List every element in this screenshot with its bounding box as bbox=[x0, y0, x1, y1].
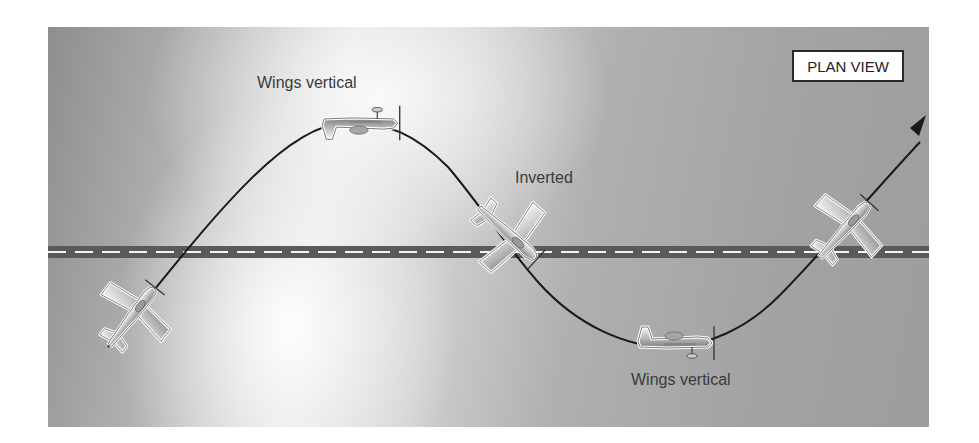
plane-entry bbox=[80, 264, 185, 368]
plane-wings-vertical-top bbox=[322, 106, 400, 141]
plane-wings-vertical-bottom bbox=[638, 326, 714, 360]
direction-arrow-icon bbox=[910, 115, 926, 136]
plan-view-text: PLAN VIEW bbox=[807, 58, 889, 75]
label-wings-vertical-top: Wings vertical bbox=[257, 74, 357, 92]
diagram-canvas bbox=[48, 27, 929, 427]
plan-view-label: PLAN VIEW bbox=[792, 50, 904, 82]
label-inverted: Inverted bbox=[515, 169, 573, 187]
diagram-panel: Wings vertical Inverted Wings vertical P… bbox=[48, 27, 929, 427]
label-wings-vertical-bottom: Wings vertical bbox=[631, 371, 731, 389]
